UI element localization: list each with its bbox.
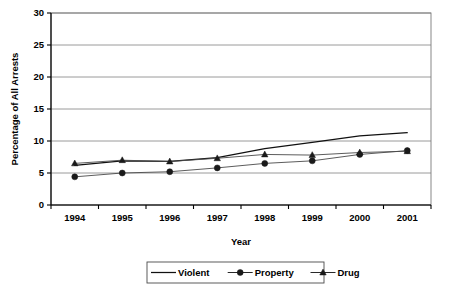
data-point-marker — [262, 160, 268, 166]
y-tick-label: 5 — [39, 167, 45, 178]
y-tick-label: 10 — [33, 135, 44, 146]
chart-background — [0, 0, 451, 293]
legend-label: Drug — [338, 267, 360, 278]
y-tick-label: 30 — [33, 7, 44, 18]
data-point-marker — [119, 170, 125, 176]
chart-container: 051015202530 199419951996199719981999200… — [0, 0, 451, 293]
x-axis-title: Year — [231, 236, 251, 247]
legend-label: Violent — [178, 267, 210, 278]
y-axis-title: Percentage of All Arrests — [9, 53, 20, 166]
line-chart: 051015202530 199419951996199719981999200… — [0, 0, 451, 293]
data-point-marker — [309, 158, 315, 164]
x-tick-label-1999: 1999 — [302, 212, 323, 223]
x-tick-label-1994: 1994 — [64, 212, 86, 223]
legend-label: Property — [255, 267, 295, 278]
x-tick-label-1998: 1998 — [254, 212, 275, 223]
x-tick-label-1995: 1995 — [112, 212, 134, 223]
y-tick-label: 20 — [33, 71, 44, 82]
x-tick-label-2000: 2000 — [349, 212, 370, 223]
legend-marker-circle-icon — [237, 270, 243, 276]
y-tick-label: 25 — [33, 39, 44, 50]
data-point-marker — [72, 174, 78, 180]
x-tick-label-2001: 2001 — [397, 212, 419, 223]
data-point-marker — [214, 165, 220, 171]
y-tick-label: 15 — [33, 103, 44, 114]
x-tick-label-1997: 1997 — [207, 212, 228, 223]
x-tick-label-1996: 1996 — [159, 212, 180, 223]
y-tick-label: 0 — [39, 199, 44, 210]
data-point-marker — [167, 169, 173, 175]
